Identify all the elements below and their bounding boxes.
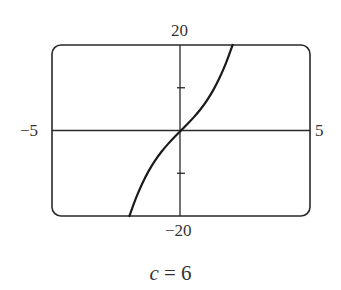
y-min-label: −20 bbox=[165, 222, 192, 239]
chart-canvas bbox=[0, 0, 341, 290]
caption-variable: c bbox=[149, 261, 158, 285]
chart-caption: c = 6 bbox=[0, 262, 341, 284]
caption-value: 6 bbox=[181, 261, 192, 285]
x-max-label: 5 bbox=[315, 122, 324, 139]
y-max-label: 20 bbox=[171, 22, 188, 39]
caption-equals: = bbox=[159, 261, 181, 285]
x-min-label: −5 bbox=[20, 122, 38, 139]
